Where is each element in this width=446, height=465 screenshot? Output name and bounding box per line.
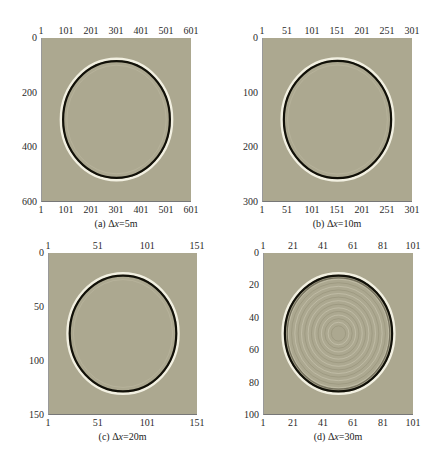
y-tick-d: 40 bbox=[249, 313, 262, 323]
x-tick-top-b: 301 bbox=[405, 26, 420, 36]
wavefield-image-b bbox=[262, 38, 412, 202]
x-tick-top-b: 201 bbox=[355, 26, 370, 36]
x-tick-top-b: 51 bbox=[282, 26, 292, 36]
y-tick-c: 50 bbox=[34, 302, 47, 312]
y-tick-a: 600 bbox=[22, 197, 40, 207]
y-tick-a: 400 bbox=[22, 142, 40, 152]
caption-value: =30m bbox=[339, 431, 362, 442]
x-tick-top-b: 101 bbox=[305, 26, 320, 36]
x-tick-top-c: 101 bbox=[140, 241, 155, 251]
x-tick-top-c: 151 bbox=[190, 241, 205, 251]
x-tick-top-a: 501 bbox=[159, 26, 174, 36]
caption-label: (b) Δ bbox=[313, 218, 334, 229]
x-tick-top-a: 601 bbox=[184, 26, 199, 36]
x-tick-bottom-d: 81 bbox=[378, 418, 388, 428]
x-tick-top-b: 251 bbox=[380, 26, 395, 36]
x-tick-bottom-a: 301 bbox=[109, 205, 124, 215]
y-tick-c: 150 bbox=[29, 410, 47, 420]
wavefield-image-a bbox=[41, 38, 191, 202]
x-tick-bottom-a: 101 bbox=[59, 205, 74, 215]
x-tick-bottom-d: 61 bbox=[348, 418, 358, 428]
caption-d: (d) Δx=30m bbox=[314, 431, 362, 442]
y-tick-a: 0 bbox=[32, 33, 40, 43]
wavefield-image-c bbox=[48, 253, 197, 415]
x-tick-top-b: 151 bbox=[330, 26, 345, 36]
y-tick-a: 200 bbox=[22, 88, 40, 98]
y-tick-d: 80 bbox=[249, 378, 262, 388]
x-tick-bottom-b: 251 bbox=[380, 205, 395, 215]
x-tick-top-a: 201 bbox=[84, 26, 99, 36]
x-tick-bottom-b: 201 bbox=[355, 205, 370, 215]
y-tick-d: 0 bbox=[254, 248, 262, 258]
x-tick-bottom-d: 41 bbox=[318, 418, 328, 428]
y-tick-b: 300 bbox=[243, 197, 261, 207]
x-tick-top-d: 61 bbox=[348, 241, 358, 251]
x-tick-bottom-a: 201 bbox=[84, 205, 99, 215]
caption-value: =5m bbox=[119, 218, 137, 229]
x-tick-bottom-d: 21 bbox=[288, 418, 298, 428]
y-tick-b: 0 bbox=[253, 33, 261, 43]
caption-a: (a) Δx=5m bbox=[95, 218, 138, 229]
x-tick-bottom-c: 101 bbox=[140, 418, 155, 428]
x-tick-bottom-b: 101 bbox=[305, 205, 320, 215]
x-tick-top-a: 101 bbox=[59, 26, 74, 36]
x-tick-bottom-b: 301 bbox=[405, 205, 420, 215]
x-tick-top-d: 101 bbox=[406, 241, 421, 251]
x-tick-bottom-a: 601 bbox=[184, 205, 199, 215]
x-tick-bottom-a: 401 bbox=[134, 205, 149, 215]
y-tick-d: 60 bbox=[249, 345, 262, 355]
x-tick-top-a: 401 bbox=[134, 26, 149, 36]
x-tick-bottom-c: 151 bbox=[190, 418, 205, 428]
x-tick-top-d: 41 bbox=[318, 241, 328, 251]
caption-label: (c) Δ bbox=[99, 431, 119, 442]
x-tick-bottom-a: 501 bbox=[159, 205, 174, 215]
x-tick-bottom-b: 51 bbox=[282, 205, 292, 215]
y-tick-b: 100 bbox=[243, 88, 261, 98]
caption-value: =10m bbox=[338, 218, 361, 229]
x-tick-top-d: 21 bbox=[288, 241, 298, 251]
caption-label: (a) Δ bbox=[95, 218, 115, 229]
x-tick-top-d: 81 bbox=[378, 241, 388, 251]
caption-b: (b) Δx=10m bbox=[313, 218, 361, 229]
y-tick-c: 0 bbox=[39, 248, 47, 258]
wavefield-image-d bbox=[263, 253, 413, 415]
x-tick-top-c: 51 bbox=[93, 241, 103, 251]
y-tick-b: 200 bbox=[243, 142, 261, 152]
caption-value: =20m bbox=[123, 431, 146, 442]
x-tick-bottom-c: 51 bbox=[93, 418, 103, 428]
caption-c: (c) Δx=20m bbox=[99, 431, 147, 442]
y-tick-c: 100 bbox=[29, 356, 47, 366]
y-tick-d: 100 bbox=[244, 410, 262, 420]
x-tick-top-a: 301 bbox=[109, 26, 124, 36]
caption-label: (d) Δ bbox=[314, 431, 335, 442]
x-tick-bottom-b: 151 bbox=[330, 205, 345, 215]
y-tick-d: 20 bbox=[249, 280, 262, 290]
x-tick-bottom-d: 101 bbox=[406, 418, 421, 428]
